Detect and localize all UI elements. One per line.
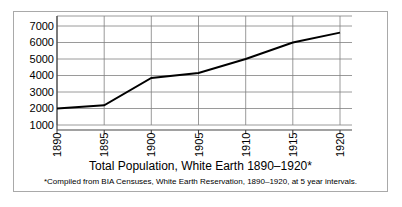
x-axis-label-1900: 1900	[146, 133, 157, 157]
x-axis-label-1890: 1890	[52, 133, 63, 157]
x-axis-label-1915: 1915	[288, 133, 299, 157]
x-axis-labels: 1890 1895 1900 1905 1910 1915 1920	[0, 0, 402, 207]
x-axis-label-1910: 1910	[241, 133, 252, 157]
chart-figure: 7000 6000 5000 4000 3000 2000 1000 1890 …	[0, 0, 402, 207]
chart-title: Total Population, White Earth 1890–1920*	[14, 159, 387, 173]
x-axis-label-1895: 1895	[99, 133, 110, 157]
chart-footnote: *Compiled from BIA Censuses, White Earth…	[14, 177, 387, 187]
x-axis-label-1905: 1905	[194, 133, 205, 157]
x-axis-label-1920: 1920	[335, 133, 346, 157]
